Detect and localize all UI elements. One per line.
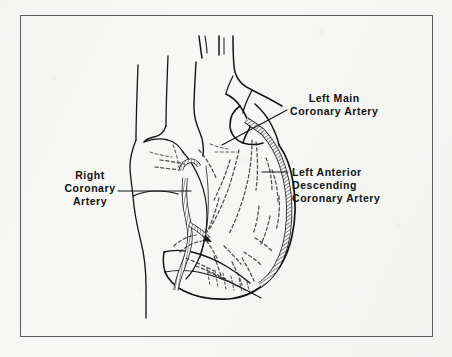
label-line: Right (62, 169, 118, 182)
label-right-coronary-artery: Right Coronary Artery (62, 169, 118, 207)
label-line: Coronary Artery (292, 192, 380, 205)
aorta-right-wall (194, 62, 203, 156)
label-left-anterior-descending-coronary-artery: Left Anterior Descending Coronary Artery (292, 166, 380, 204)
label-left-main-coronary-artery: Left Main Coronary Artery (290, 92, 378, 118)
label-line: Left Main (290, 92, 378, 105)
brachiocephalic-branch-stubs (199, 36, 224, 58)
aorta-left-wall (144, 56, 168, 142)
label-line: Coronary (62, 182, 118, 195)
label-line: Coronary Artery (290, 105, 378, 118)
aortic-arch (226, 36, 282, 106)
illustration-page: Left Main Coronary Artery Left Anterior … (0, 0, 452, 357)
label-line: Descending (292, 179, 380, 192)
label-line: Left Anterior (292, 166, 380, 179)
label-line: Artery (62, 195, 118, 208)
posterior-coronary-branches (155, 140, 279, 291)
atrium-dashed-detail (150, 144, 237, 168)
